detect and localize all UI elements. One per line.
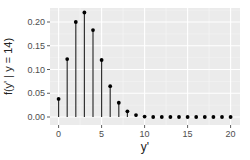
data-point (108, 84, 112, 88)
x-tick-label: 10 (140, 129, 150, 139)
y-tick-label: 0.00 (27, 112, 45, 122)
data-point (143, 115, 147, 119)
y-axis-label: f(y' | y = 14) (2, 38, 14, 95)
y-tick-label: 0.15 (27, 41, 45, 51)
data-point (134, 113, 138, 117)
y-axis-ticks: 0.000.050.100.150.20 (27, 17, 50, 122)
y-tick-label: 0.10 (27, 65, 45, 75)
chart: 0.000.050.100.150.20 05101520 y' f(y' | … (0, 0, 250, 160)
data-point (151, 115, 155, 119)
data-point (91, 28, 95, 32)
data-point (203, 115, 207, 119)
data-point (65, 57, 69, 61)
data-point (160, 115, 164, 119)
x-tick-label: 5 (99, 129, 104, 139)
data-point (194, 115, 198, 119)
y-tick-label: 0.20 (27, 17, 45, 27)
data-point (57, 97, 61, 101)
data-point (177, 115, 181, 119)
x-axis-ticks: 05101520 (56, 125, 236, 139)
data-point (186, 115, 190, 119)
x-tick-label: 15 (183, 129, 193, 139)
data-point (83, 11, 87, 15)
x-tick-label: 0 (56, 129, 61, 139)
data-point (117, 101, 121, 105)
data-point (212, 115, 216, 119)
x-axis-label: y' (141, 140, 149, 154)
data-point (74, 20, 78, 24)
data-point (169, 115, 173, 119)
x-tick-label: 20 (226, 129, 236, 139)
data-point (229, 115, 233, 119)
data-point (220, 115, 224, 119)
data-point (100, 58, 104, 62)
y-tick-label: 0.05 (27, 88, 45, 98)
data-point (126, 109, 130, 113)
